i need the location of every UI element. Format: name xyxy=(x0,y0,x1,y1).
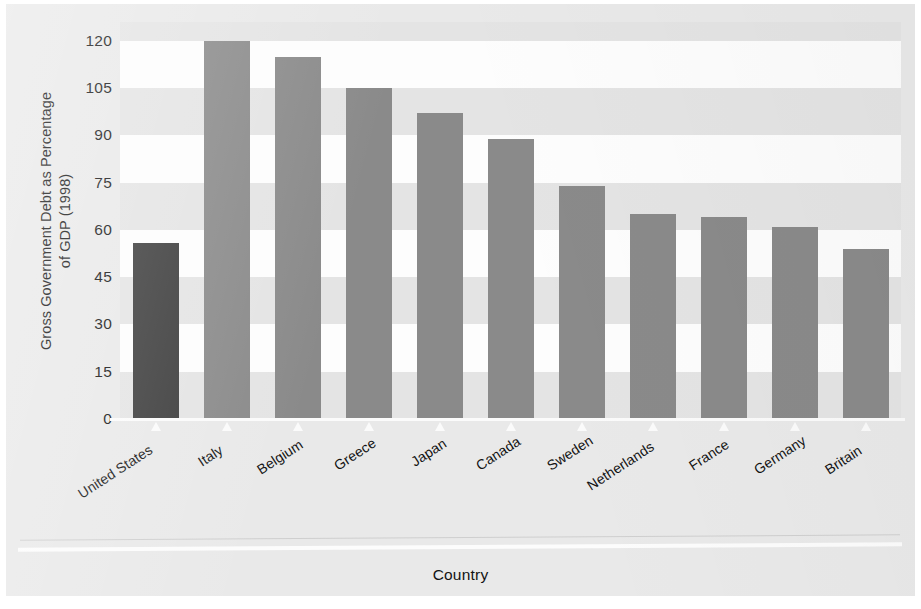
bar[interactable] xyxy=(133,243,179,419)
x-tick-mark xyxy=(151,422,161,431)
bar[interactable] xyxy=(275,57,321,419)
x-category-label: Germany xyxy=(751,432,809,477)
bar[interactable] xyxy=(559,186,605,419)
x-category-label: Sweden xyxy=(544,432,596,473)
x-category-label: United States xyxy=(75,442,155,502)
y-axis-tick-labels: 0153045607590105120 xyxy=(54,22,112,419)
x-category-label: Belgium xyxy=(254,436,306,477)
x-tick-mark xyxy=(648,422,658,431)
x-tick-mark xyxy=(577,422,587,431)
x-tick-mark xyxy=(506,422,516,431)
bar[interactable] xyxy=(772,227,818,419)
y-tick-label: 90 xyxy=(66,126,112,144)
x-category-label: Greece xyxy=(331,435,379,474)
x-category-label: Britain xyxy=(822,442,865,477)
y-tick-label: 45 xyxy=(66,268,112,286)
separator-line xyxy=(20,534,900,540)
x-tick-mark xyxy=(293,422,303,431)
separator-line-highlight xyxy=(18,542,902,551)
bar[interactable] xyxy=(204,41,250,419)
bar[interactable] xyxy=(417,113,463,419)
x-tick-mark xyxy=(435,422,445,431)
x-tick-mark xyxy=(364,422,374,431)
x-tick-mark xyxy=(861,422,871,431)
x-category-label: Canada xyxy=(473,433,523,473)
bar[interactable] xyxy=(346,88,392,419)
bar[interactable] xyxy=(488,139,534,419)
bar[interactable] xyxy=(843,249,889,419)
bar[interactable] xyxy=(630,214,676,419)
y-tick-label: 60 xyxy=(66,221,112,239)
x-axis-title: Country xyxy=(6,566,915,584)
y-tick-label: 15 xyxy=(66,363,112,381)
chart-panel: Gross Government Debt as Percentage of G… xyxy=(6,4,915,596)
x-tick-mark xyxy=(222,422,232,431)
y-tick-label: 30 xyxy=(66,315,112,333)
figure-container: Gross Government Debt as Percentage of G… xyxy=(0,0,921,609)
y-tick-label: 0 xyxy=(66,410,112,428)
y-tick-label: 75 xyxy=(66,174,112,192)
x-category-label: France xyxy=(686,436,732,473)
x-category-label: Italy xyxy=(195,442,226,470)
x-axis-baseline xyxy=(110,418,905,421)
plot-area xyxy=(120,22,901,419)
y-tick-label: 120 xyxy=(66,32,112,50)
x-tick-mark xyxy=(790,422,800,431)
y-tick-label: 105 xyxy=(66,79,112,97)
x-category-label: Netherlands xyxy=(584,439,657,494)
x-tick-mark xyxy=(719,422,729,431)
x-category-label: Japan xyxy=(408,435,449,469)
grid-band xyxy=(120,22,901,41)
bar[interactable] xyxy=(701,217,747,419)
